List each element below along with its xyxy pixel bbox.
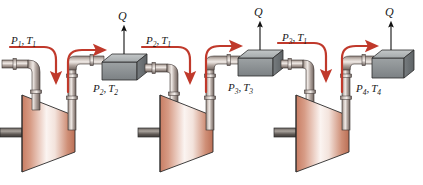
aftercooler-front-face	[372, 58, 404, 78]
heat-label-2: Q	[254, 5, 263, 19]
state-label-t-sub: 1	[167, 40, 171, 49]
state-label-comma: ,	[238, 81, 241, 93]
compressor-body	[296, 95, 349, 172]
pipe-flange	[362, 54, 365, 65]
pipe-flange	[288, 58, 291, 69]
pipe-flange	[168, 92, 179, 95]
state-label-t-sub: 1	[303, 37, 307, 46]
compressor-shaft	[274, 128, 296, 137]
pipe-flange	[13, 58, 16, 69]
state-label-t-sub: 4	[377, 88, 381, 97]
heat-rejection-1: Q	[118, 9, 127, 54]
compressor-shaft	[138, 128, 160, 137]
state-label-t-sub: 2	[114, 88, 118, 97]
compressor-body	[22, 95, 75, 172]
intercooler-front-face	[238, 58, 273, 76]
compressor-body	[160, 95, 213, 172]
state-label-t-sub: 1	[32, 40, 36, 49]
state-label-comma: ,	[366, 82, 369, 94]
flow-arrow-cooler1-to-stage2	[142, 47, 190, 78]
multistage-compression-figure: Q Q Q P1,T1 P2,T2 P2,T1 P3,T3	[0, 0, 423, 185]
compressor-stage-3	[274, 95, 349, 172]
state-label-comma: ,	[156, 34, 159, 46]
heat-rejection-3: Q	[385, 5, 394, 50]
svg-text:P3,T3: P3,T3	[227, 81, 253, 96]
pipe-flange	[66, 96, 77, 99]
riser-pipe-to-intercooler-1	[68, 54, 104, 70]
svg-text:P4,T4: P4,T4	[355, 82, 381, 97]
intercooler-2	[238, 50, 283, 76]
state-label-comma: ,	[292, 31, 295, 43]
pipe-elbow-up	[68, 56, 104, 70]
aftercooler	[372, 50, 414, 78]
svg-text:P2,T2: P2,T2	[92, 82, 118, 97]
state-label-comma: ,	[103, 82, 106, 94]
pipe-horizontal	[281, 60, 303, 68]
pipe-flange	[204, 96, 215, 99]
pipe-flange	[227, 54, 230, 65]
pipe-flange	[340, 96, 351, 99]
pipe-flange	[30, 90, 41, 93]
flow-arrow-cooler2-to-stage3	[278, 43, 326, 76]
intercooler-front-face	[102, 62, 137, 80]
riser-pipe-to-intercooler-2	[206, 54, 240, 70]
compressor-stage-2	[138, 95, 213, 172]
pipe-horizontal	[145, 64, 167, 72]
heat-rejection-2: Q	[254, 5, 263, 50]
pipe-elbow-up	[342, 56, 374, 70]
state-label-comma: ,	[21, 34, 24, 46]
compressor-shaft	[0, 128, 22, 137]
riser-pipe-to-aftercooler	[342, 54, 374, 70]
pipe-flange	[304, 90, 315, 93]
heat-label-1: Q	[118, 9, 127, 23]
pipe-flange	[90, 54, 93, 65]
diagram-canvas: Q Q Q P1,T1 P2,T2 P2,T1 P3,T3	[0, 0, 423, 185]
state-label-stage1-out: P2,T2	[92, 82, 118, 97]
state-label-stage2-out: P3,T3	[227, 81, 253, 96]
pipe-flange	[152, 62, 155, 73]
state-label-stage3-out: P4,T4	[355, 82, 381, 97]
pipe-elbow-up	[206, 56, 240, 70]
heat-label-3: Q	[385, 5, 394, 19]
intercooler-1	[102, 54, 147, 80]
state-label-t-sub: 3	[248, 87, 253, 96]
